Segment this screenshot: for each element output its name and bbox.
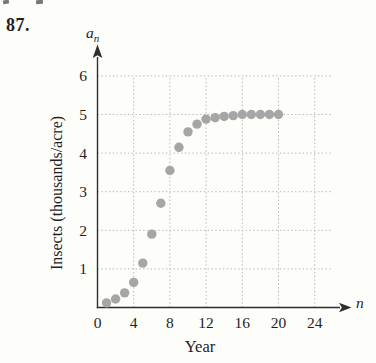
data-point xyxy=(210,113,219,122)
data-point xyxy=(183,127,192,136)
data-point xyxy=(147,229,156,238)
y-tick-label: 1 xyxy=(79,260,87,277)
y-tick-label: 4 xyxy=(79,145,87,162)
x-axis-arrowhead xyxy=(339,303,352,313)
data-point xyxy=(111,294,120,303)
y-axis-arrowhead xyxy=(93,45,103,59)
y-tick-label: 2 xyxy=(79,222,87,239)
y-tick-label: 3 xyxy=(79,183,87,200)
data-point xyxy=(165,166,174,175)
data-point xyxy=(129,278,138,287)
data-point xyxy=(192,119,201,128)
chart-svg: 04812162024123456 xyxy=(0,0,376,363)
data-point xyxy=(265,110,274,119)
data-point xyxy=(156,199,165,208)
y-tick-label: 6 xyxy=(79,67,87,84)
x-tick-label: 4 xyxy=(130,314,138,331)
x-tick-label: 12 xyxy=(198,314,214,331)
data-point xyxy=(247,110,256,119)
data-point xyxy=(120,288,129,297)
x-tick-label: 24 xyxy=(307,314,323,331)
data-point xyxy=(102,298,111,307)
x-tick-label: 16 xyxy=(235,314,251,331)
data-point xyxy=(238,110,247,119)
y-tick-label: 5 xyxy=(79,106,87,123)
x-tick-label: 0 xyxy=(94,314,102,331)
data-point xyxy=(229,111,238,120)
data-point xyxy=(138,258,147,267)
x-tick-label: 20 xyxy=(271,314,287,331)
data-point xyxy=(201,114,210,123)
x-tick-label: 8 xyxy=(166,314,174,331)
data-point xyxy=(174,143,183,152)
data-point xyxy=(220,112,229,121)
data-point xyxy=(274,110,283,119)
data-point xyxy=(256,110,265,119)
